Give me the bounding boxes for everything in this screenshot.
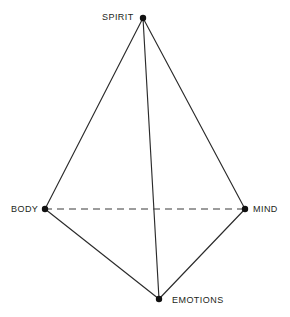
vertex-label-spirit: SPIRIT (102, 13, 134, 22)
diagram-canvas: SPIRIT BODY MIND EMOTIONS (0, 0, 290, 317)
vertex-label-body: BODY (11, 205, 38, 214)
vertex-mind[interactable] (242, 206, 248, 212)
edge-spirit-emotions (143, 18, 159, 299)
edge-spirit-mind (143, 18, 245, 209)
vertex-label-emotions: EMOTIONS (172, 296, 224, 305)
edge-spirit-body (45, 18, 143, 209)
vertex-spirit[interactable] (140, 15, 146, 21)
vertex-emotions[interactable] (156, 296, 162, 302)
vertex-label-mind: MIND (253, 205, 278, 214)
vertex-body[interactable] (42, 206, 48, 212)
edge-body-emotions (45, 209, 159, 299)
edge-mind-emotions (159, 209, 245, 299)
tetrahedron-diagram (0, 0, 290, 317)
